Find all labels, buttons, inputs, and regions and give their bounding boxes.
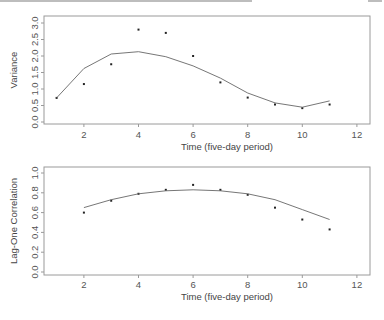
y-tick-label: 0.5 bbox=[29, 99, 40, 112]
x-tick-label: 2 bbox=[81, 279, 86, 290]
y-axis-label: Variance bbox=[8, 52, 19, 89]
y-tick-label: 0.8 bbox=[29, 186, 40, 199]
fitted-curve bbox=[57, 52, 330, 107]
x-axis-label: Time (five-day period) bbox=[181, 141, 273, 152]
y-tick-label: 0.4 bbox=[29, 226, 40, 239]
data-point bbox=[192, 55, 194, 57]
data-point bbox=[165, 32, 167, 34]
y-tick-label: 1.0 bbox=[29, 82, 40, 95]
figure: 246810120.00.51.01.52.02.53.0Time (five-… bbox=[0, 0, 384, 320]
x-tick-label: 12 bbox=[352, 129, 363, 140]
data-point bbox=[83, 83, 85, 85]
y-tick-label: 0.6 bbox=[29, 206, 40, 219]
x-tick-label: 8 bbox=[245, 279, 250, 290]
y-tick-label: 1.5 bbox=[29, 66, 40, 79]
data-point bbox=[110, 63, 112, 65]
variance-panel: 246810120.00.51.01.52.02.53.0Time (five-… bbox=[8, 16, 370, 152]
x-tick-label: 12 bbox=[352, 279, 363, 290]
y-tick-label: 0.0 bbox=[29, 265, 40, 278]
data-point bbox=[192, 184, 194, 186]
x-tick-label: 8 bbox=[245, 129, 250, 140]
y-tick-label: 1.0 bbox=[29, 166, 40, 179]
x-axis-label: Time (five-day period) bbox=[181, 291, 273, 302]
fitted-curve bbox=[84, 190, 330, 220]
x-tick-label: 4 bbox=[136, 129, 141, 140]
x-tick-label: 2 bbox=[81, 129, 86, 140]
y-tick-label: 0.0 bbox=[29, 115, 40, 128]
plot-frame bbox=[44, 16, 370, 124]
y-axis-label: Lag-One Correlation bbox=[8, 178, 19, 264]
data-point bbox=[274, 104, 276, 106]
data-point bbox=[274, 207, 276, 209]
plot-frame bbox=[44, 167, 370, 275]
x-tick-label: 10 bbox=[297, 129, 308, 140]
x-tick-label: 4 bbox=[136, 279, 141, 290]
data-point bbox=[301, 219, 303, 221]
lag-one-correlation-panel: 246810120.00.20.40.60.81.0Time (five-day… bbox=[8, 166, 370, 302]
y-tick-label: 3.0 bbox=[29, 16, 40, 29]
x-tick-label: 6 bbox=[190, 129, 195, 140]
x-tick-label: 10 bbox=[297, 279, 308, 290]
data-point bbox=[138, 29, 140, 31]
data-point bbox=[329, 104, 331, 106]
y-tick-label: 0.2 bbox=[29, 246, 40, 259]
data-point bbox=[83, 212, 85, 214]
data-point bbox=[247, 97, 249, 99]
y-tick-label: 2.5 bbox=[29, 33, 40, 46]
y-tick-label: 2.0 bbox=[29, 49, 40, 62]
data-point bbox=[329, 228, 331, 230]
x-tick-label: 6 bbox=[190, 279, 195, 290]
data-point bbox=[219, 81, 221, 83]
